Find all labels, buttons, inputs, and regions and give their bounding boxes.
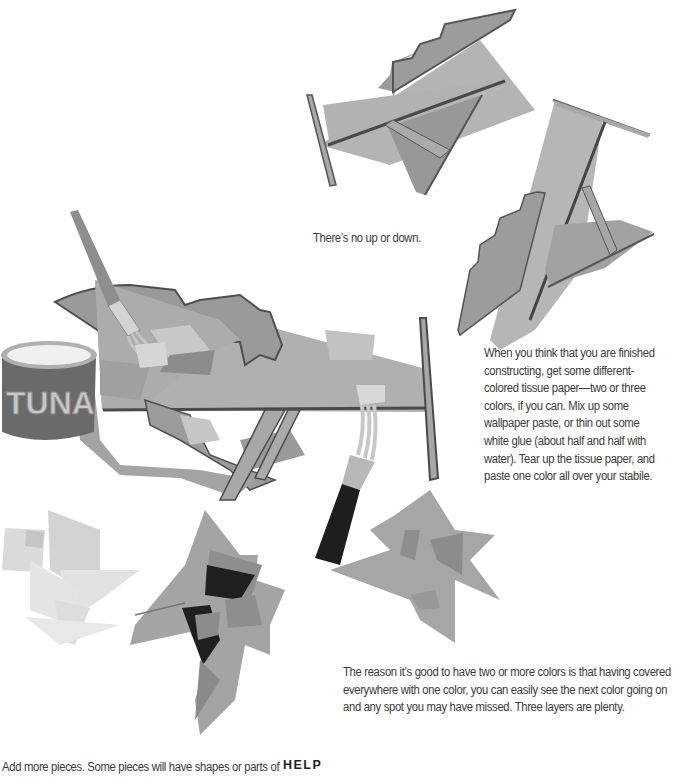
section-heading-help: HELP <box>283 758 322 772</box>
instruction-paragraph-colors: The reason it’s good to have two or more… <box>343 664 674 717</box>
stabile-pale <box>2 510 140 645</box>
stabile-dark <box>130 510 285 735</box>
tuna-can: TUNA <box>1 341 97 440</box>
illustration-caption: There’s no up or down. <box>313 230 421 248</box>
svg-text:TUNA: TUNA <box>6 385 95 421</box>
stabile-right <box>458 100 654 350</box>
paintbrush-lower <box>315 385 385 565</box>
stabile-right-lower <box>330 490 500 643</box>
instruction-paragraph-tissue-paper: When you think that you are finished con… <box>484 345 660 486</box>
stabile-top <box>307 10 535 195</box>
